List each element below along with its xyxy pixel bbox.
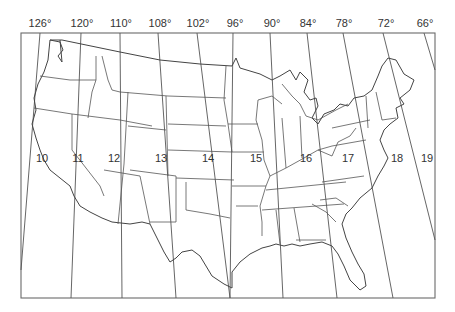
longitude-label-84: 84°	[300, 17, 317, 29]
longitude-label-72: 72°	[378, 17, 395, 29]
meridian-120	[71, 33, 81, 298]
zone-label-12: 12	[108, 152, 120, 164]
zone-label-17: 17	[342, 152, 354, 164]
longitude-labels: 126° 120° 110° 108° 102° 96° 90° 84° 78°…	[29, 17, 434, 29]
longitude-label-102: 102°	[187, 17, 210, 29]
zone-label-10: 10	[36, 152, 48, 164]
border-sd-ne	[168, 124, 226, 126]
longitude-label-110: 110°	[110, 17, 132, 29]
border-ky-tn	[266, 182, 346, 190]
meridian-96	[230, 33, 233, 298]
border-ks-ok	[176, 178, 234, 180]
border-id-west	[88, 56, 96, 118]
border-mississippi-river	[256, 100, 270, 236]
border-az-nm	[104, 170, 150, 224]
border-dakotas-mn	[224, 66, 232, 152]
longitude-label-120: 120°	[71, 17, 94, 29]
zone-label-14: 14	[202, 152, 214, 164]
border-pa-south	[332, 140, 366, 146]
border-nv-ut	[104, 118, 152, 126]
longitude-label-108: 108°	[149, 17, 172, 29]
border-new-england	[376, 92, 396, 120]
longitude-label-96: 96°	[227, 17, 244, 29]
map-frame	[21, 33, 435, 298]
longitude-label-126: 126°	[29, 17, 52, 29]
zone-label-18: 18	[391, 152, 403, 164]
border-nm-tx	[150, 176, 176, 222]
border-id-mt	[102, 56, 120, 92]
border-wa-or	[40, 76, 96, 80]
border-nd-sd	[168, 96, 226, 98]
zone-labels: 10 11 12 13 14 15 16 17 18 19	[36, 152, 433, 164]
border-va-nc	[322, 176, 364, 182]
border-mt-wy	[120, 92, 168, 96]
zone-label-15: 15	[250, 152, 262, 164]
border-pa-ny	[332, 120, 370, 128]
border-wy-co	[128, 126, 166, 130]
meridian-66	[424, 33, 435, 70]
border-il-in	[282, 118, 286, 168]
zone-label-11: 11	[72, 152, 83, 164]
meridian-78	[343, 33, 393, 298]
border-tn-south	[262, 204, 344, 210]
meridian-72	[383, 33, 435, 240]
border-al-ga	[294, 208, 300, 242]
state-borders	[34, 56, 396, 244]
zone-label-16: 16	[300, 152, 312, 164]
longitude-label-90: 90°	[264, 17, 281, 29]
meridian-110	[120, 33, 122, 298]
meridian-108	[158, 33, 176, 298]
meridian-102	[197, 33, 230, 298]
utm-zone-map: 126° 120° 110° 108° 102° 96° 90° 84° 78°…	[0, 0, 455, 312]
longitude-label-66: 66°	[417, 17, 434, 29]
border-ny-ne	[366, 96, 368, 128]
border-ga-sc	[312, 204, 336, 222]
meridian-84	[307, 33, 337, 298]
longitude-label-78: 78°	[336, 17, 353, 29]
zone-label-13: 13	[155, 152, 167, 164]
border-wi-mi	[258, 96, 282, 104]
border-or-ca-nv	[34, 108, 104, 118]
zone-label-19: 19	[421, 152, 433, 164]
border-ne-ks	[168, 150, 232, 152]
meridian-90	[270, 33, 283, 298]
meridian-lines	[21, 33, 435, 298]
border-ok-tx	[186, 182, 230, 218]
us-outline	[32, 40, 414, 290]
